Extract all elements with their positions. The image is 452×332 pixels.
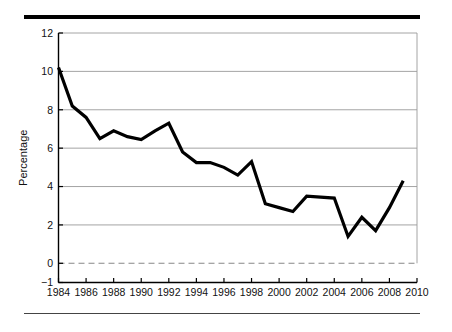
chart-plot-area: 1984198619881990199219941996199820002002… — [0, 0, 452, 332]
data-series — [59, 68, 404, 237]
y-axis-tick-labels: 121086420−1 — [41, 27, 53, 289]
y-tick-label: 4 — [47, 180, 53, 192]
x-tick-label: 1990 — [130, 286, 154, 298]
x-tick-label: 1986 — [74, 286, 98, 298]
x-tick-label: 1988 — [102, 286, 126, 298]
y-tick-label: 8 — [47, 104, 53, 116]
y-axis-label: Percentage — [17, 130, 29, 186]
figure-container: 1984198619881990199219941996199820002002… — [0, 0, 452, 332]
y-tick-label: 2 — [47, 219, 53, 231]
x-tick-label: 1998 — [240, 286, 264, 298]
x-tick-label: 2000 — [267, 286, 291, 298]
x-tick-label: 2010 — [405, 286, 429, 298]
x-tick-label: 2008 — [378, 286, 402, 298]
y-tick-label: −1 — [41, 276, 53, 288]
series-line — [59, 68, 404, 237]
bottom-rule — [24, 313, 420, 314]
y-tick-label: 10 — [41, 65, 53, 77]
x-tick-label: 2006 — [350, 286, 374, 298]
x-tick-label: 2004 — [323, 286, 347, 298]
x-tick-label: 1996 — [212, 286, 236, 298]
x-tick-label: 1994 — [185, 286, 209, 298]
axis-lines — [59, 33, 418, 283]
x-tick-label: 1992 — [157, 286, 181, 298]
y-tick-label: 12 — [41, 27, 53, 39]
x-axis-tick-labels: 1984198619881990199219941996199820002002… — [47, 286, 429, 298]
y-tick-label: 0 — [47, 257, 53, 269]
x-tick-label: 2002 — [295, 286, 319, 298]
y-axis-label-text: Percentage — [17, 130, 29, 186]
line-chart: 1984198619881990199219941996199820002002… — [0, 0, 452, 332]
y-tick-label: 6 — [47, 142, 53, 154]
gridlines — [59, 33, 418, 263]
